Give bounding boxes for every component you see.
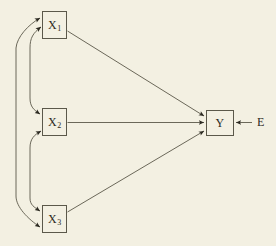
node-y[interactable]: Y — [206, 110, 234, 136]
node-y-label: Y — [216, 117, 225, 129]
node-x1[interactable]: X1 — [42, 11, 67, 39]
edge-x1-to-y — [68, 31, 205, 116]
node-x3[interactable]: X3 — [42, 205, 67, 233]
diagram-canvas: X1 X2 X3 Y E — [0, 0, 276, 246]
edge-x3-to-y — [68, 131, 205, 212]
node-e-label: E — [257, 116, 264, 128]
edge-x1-x3-covariance — [16, 18, 40, 227]
node-x2-label: X2 — [48, 116, 61, 128]
edge-x2-x3-covariance — [30, 131, 41, 211]
node-x1-label: X1 — [48, 19, 61, 31]
node-x3-label: X3 — [48, 213, 61, 225]
edge-x1-x2-covariance — [30, 27, 41, 114]
node-x2[interactable]: X2 — [42, 108, 67, 136]
